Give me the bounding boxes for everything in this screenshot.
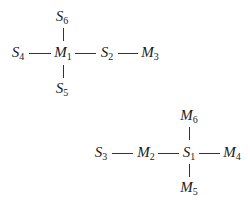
node-letter: M (141, 44, 154, 60)
edge-s2-m3 (118, 53, 138, 54)
edge-m1-s2 (75, 53, 96, 54)
node-subscript: 1 (190, 151, 195, 162)
node-subscript: 3 (154, 51, 159, 62)
node-s2: S2 (101, 45, 114, 62)
node-letter: M (54, 44, 67, 60)
node-m6: M6 (180, 108, 198, 125)
node-subscript: 1 (67, 51, 72, 62)
node-m2: M2 (137, 145, 155, 162)
node-letter: S (101, 44, 109, 60)
node-letter: M (223, 144, 236, 160)
node-letter: S (56, 80, 64, 96)
edge-s3-m2 (112, 153, 133, 154)
node-subscript: 2 (150, 151, 155, 162)
node-letter: S (56, 8, 64, 24)
node-letter: S (12, 44, 20, 60)
node-m4: M4 (223, 145, 241, 162)
node-letter: S (183, 144, 191, 160)
node-subscript: 2 (108, 51, 113, 62)
node-s3: S3 (95, 145, 108, 162)
node-subscript: 6 (193, 114, 198, 125)
node-s6: S6 (56, 9, 69, 26)
edge-m6-s1 (189, 127, 190, 140)
edge-s4-m1 (29, 53, 51, 54)
node-s5: S5 (56, 81, 69, 98)
node-letter: M (180, 107, 193, 123)
node-subscript: 6 (63, 15, 68, 26)
node-m3: M3 (141, 45, 159, 62)
node-letter: S (95, 144, 103, 160)
edge-m1-s5 (63, 65, 64, 78)
node-letter: M (137, 144, 150, 160)
node-m5: M5 (180, 180, 198, 197)
node-s4: S4 (12, 45, 25, 62)
node-subscript: 4 (19, 51, 24, 62)
edge-m2-s1 (158, 153, 179, 154)
edge-s1-m4 (199, 153, 220, 154)
node-subscript: 5 (63, 87, 68, 98)
edge-s6-m1 (63, 28, 64, 41)
node-subscript: 5 (193, 186, 198, 197)
node-m1: M1 (54, 45, 72, 62)
node-subscript: 3 (102, 151, 107, 162)
node-subscript: 4 (236, 151, 241, 162)
edge-s1-m5 (189, 164, 190, 177)
node-letter: M (180, 179, 193, 195)
node-s1: S1 (183, 145, 196, 162)
